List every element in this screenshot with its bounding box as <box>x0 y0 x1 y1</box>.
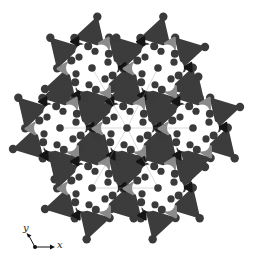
atom <box>141 173 148 180</box>
atom <box>170 59 177 66</box>
tetrahedron <box>79 22 101 44</box>
atom <box>171 50 179 58</box>
atom <box>126 108 133 115</box>
atom <box>82 235 90 243</box>
atom <box>93 13 101 21</box>
atom <box>35 116 43 124</box>
tetrahedron <box>214 102 236 124</box>
atom <box>106 138 114 146</box>
atom <box>133 176 141 184</box>
atom <box>148 235 156 243</box>
atom <box>71 78 79 86</box>
center-atom <box>88 64 96 72</box>
atom <box>167 75 174 82</box>
atom <box>102 116 110 124</box>
atom <box>167 195 174 202</box>
atom <box>67 176 75 184</box>
atom <box>91 168 98 175</box>
atom <box>101 75 108 82</box>
atom <box>168 116 176 124</box>
x-axis-label: x <box>57 239 63 250</box>
atom <box>110 113 117 120</box>
center-atom <box>123 124 131 132</box>
crystal-structure-diagram <box>0 0 259 261</box>
atom <box>73 110 81 118</box>
atom <box>71 198 79 206</box>
tetrahedron <box>179 42 201 64</box>
atom <box>151 201 158 208</box>
atom <box>107 130 114 137</box>
atom <box>40 130 47 137</box>
tetrahedron <box>179 162 201 184</box>
center-atom <box>154 184 162 192</box>
atom <box>9 145 17 153</box>
atom <box>105 170 113 178</box>
atom <box>81 94 89 102</box>
atom <box>92 86 100 94</box>
atom <box>175 72 183 80</box>
atom <box>104 59 111 66</box>
atom <box>158 206 166 214</box>
atom <box>127 146 135 154</box>
atom <box>176 113 183 120</box>
atom <box>151 81 158 88</box>
atom <box>159 13 167 21</box>
atom <box>75 53 82 60</box>
atom <box>157 168 164 175</box>
atom <box>72 119 79 126</box>
atom <box>105 50 113 58</box>
atom <box>53 141 60 148</box>
atom <box>109 192 117 200</box>
tetrahedron <box>145 22 167 44</box>
atom <box>205 119 212 126</box>
atom <box>147 94 155 102</box>
atom <box>195 214 203 222</box>
atom <box>85 201 92 208</box>
atom <box>75 173 82 180</box>
atom <box>41 85 49 93</box>
atom <box>171 170 179 178</box>
atom <box>92 206 100 214</box>
atom <box>41 205 49 213</box>
atom <box>201 163 209 171</box>
atom <box>201 43 209 51</box>
atom <box>91 48 98 55</box>
atom <box>236 103 244 111</box>
atom <box>138 190 145 197</box>
atom <box>120 141 127 148</box>
atom <box>139 119 146 126</box>
atom <box>206 110 214 118</box>
atom <box>52 102 60 110</box>
atom <box>158 86 166 94</box>
y-axis-label: y <box>23 222 29 233</box>
tetrahedron <box>18 133 40 155</box>
atom <box>136 135 143 142</box>
atom <box>39 138 47 146</box>
atom <box>150 162 158 170</box>
atom <box>194 73 202 81</box>
atom <box>69 135 76 142</box>
atom <box>172 138 180 146</box>
atom <box>84 162 92 170</box>
tetrahedron <box>50 193 72 215</box>
atom <box>67 56 75 64</box>
atom <box>84 42 92 50</box>
atom <box>173 130 180 137</box>
atom <box>109 72 117 80</box>
atom <box>43 113 50 120</box>
atom <box>60 146 68 154</box>
atom <box>170 179 177 186</box>
atom <box>138 70 145 77</box>
center-atom <box>154 64 162 72</box>
atom <box>175 192 183 200</box>
atom <box>14 94 22 102</box>
atom <box>59 108 66 115</box>
atom <box>193 146 201 154</box>
atom <box>133 56 141 64</box>
atom <box>144 132 152 140</box>
atom <box>186 141 193 148</box>
atom <box>72 70 79 77</box>
tetrahedron <box>149 213 171 235</box>
atom <box>140 110 148 118</box>
atom <box>157 48 164 55</box>
